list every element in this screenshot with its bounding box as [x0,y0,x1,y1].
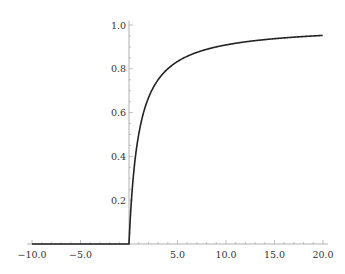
y-tick-label: 0.8 [111,63,126,74]
x-tick-label: −5.0 [69,249,92,260]
line-chart: −10.0−5.05.010.015.020.00.20.40.60.81.0 [0,0,345,274]
y-tick-label: 0.4 [111,151,126,162]
x-tick-label: 20.0 [312,249,333,260]
tick-labels: −10.0−5.05.010.015.020.00.20.40.60.81.0 [17,20,333,261]
x-tick-label: 10.0 [215,249,236,260]
data-series [32,35,323,244]
y-tick-label: 0.6 [111,107,126,118]
y-tick-label: 1.0 [111,20,126,31]
y-tick-label: 0.2 [111,195,126,206]
x-tick-label: 15.0 [264,249,285,260]
x-tick-label: −10.0 [17,249,46,260]
series-line [32,35,323,244]
x-tick-label: 5.0 [170,249,185,260]
